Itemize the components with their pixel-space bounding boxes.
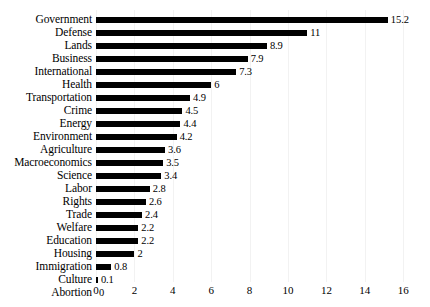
value-label: 11	[310, 26, 320, 39]
bar-row: Transportation4.9	[0, 91, 430, 104]
x-tick-label: 4	[170, 283, 176, 297]
value-label: 0.8	[114, 260, 127, 273]
category-label: International	[35, 65, 92, 78]
bar	[96, 95, 190, 101]
value-label: 4.4	[183, 117, 196, 130]
x-tick-label: 0	[93, 283, 99, 297]
category-label: Transportation	[26, 91, 92, 104]
bar	[96, 30, 307, 36]
value-label: 2.2	[141, 221, 154, 234]
bar-row: Trade2.4	[0, 208, 430, 221]
value-label: 4.5	[185, 104, 198, 117]
bar-row: Education2.2	[0, 234, 430, 247]
category-label: Welfare	[57, 221, 92, 234]
category-label: Immigration	[36, 260, 92, 273]
bar	[96, 56, 248, 62]
value-label: 2.6	[149, 195, 162, 208]
category-label: Environment	[33, 130, 92, 143]
bar-row: Housing2	[0, 247, 430, 260]
value-label: 7.3	[239, 65, 252, 78]
value-label: 3.6	[168, 143, 181, 156]
bar	[96, 108, 182, 114]
bar-row: Business7.9	[0, 52, 430, 65]
bar-row: International7.3	[0, 65, 430, 78]
bar	[96, 251, 134, 257]
bar	[96, 121, 180, 127]
value-label: 6	[214, 78, 219, 91]
value-label: 2	[137, 247, 142, 260]
category-label: Health	[62, 78, 92, 91]
bar	[96, 186, 150, 192]
x-tick-label: 6	[208, 283, 214, 297]
bar	[96, 69, 236, 75]
x-tick-label: 8	[247, 283, 253, 297]
bar-row: Environment4.2	[0, 130, 430, 143]
bar	[96, 212, 142, 218]
bar-row: Science3.4	[0, 169, 430, 182]
x-tick-label: 14	[359, 283, 370, 297]
bar-row: Labor2.8	[0, 182, 430, 195]
plot-area: Government15.2Defense11Lands8.9Business7…	[0, 0, 430, 307]
category-label: Lands	[64, 39, 92, 52]
x-axis: 0246810121416	[0, 283, 430, 303]
bar-row: Macroeconomics3.5	[0, 156, 430, 169]
value-label: 8.9	[270, 39, 283, 52]
x-tick-label: 2	[132, 283, 138, 297]
category-label: Defense	[55, 26, 92, 39]
value-label: 4.2	[180, 130, 193, 143]
category-label: Education	[46, 234, 92, 247]
bar	[96, 238, 138, 244]
bar-row: Defense11	[0, 26, 430, 39]
bar	[96, 17, 388, 23]
x-tick-label: 16	[398, 283, 409, 297]
bar	[96, 199, 146, 205]
category-label: Rights	[63, 195, 92, 208]
value-label: 2.2	[141, 234, 154, 247]
bar-row: Government15.2	[0, 13, 430, 26]
bar-row: Immigration0.8	[0, 260, 430, 273]
category-label: Labor	[65, 182, 92, 195]
category-label: Macroeconomics	[14, 156, 92, 169]
bar-row: Agriculture3.6	[0, 143, 430, 156]
category-label: Crime	[64, 104, 92, 117]
bar-chart: Government15.2Defense11Lands8.9Business7…	[0, 0, 430, 307]
category-label: Trade	[66, 208, 92, 221]
value-label: 15.2	[391, 13, 409, 26]
bar-row: Health6	[0, 78, 430, 91]
bar	[96, 225, 138, 231]
value-label: 4.9	[193, 91, 206, 104]
x-tick-label: 12	[321, 283, 332, 297]
category-label: Housing	[54, 247, 92, 260]
value-label: 7.9	[251, 52, 264, 65]
bar	[96, 277, 98, 283]
bar	[96, 147, 165, 153]
bar-row: Welfare2.2	[0, 221, 430, 234]
bar	[96, 82, 211, 88]
bar	[96, 134, 177, 140]
bar-row: Rights2.6	[0, 195, 430, 208]
value-label: 3.4	[164, 169, 177, 182]
bar	[96, 43, 267, 49]
category-label: Agriculture	[40, 143, 92, 156]
x-tick-label: 10	[283, 283, 294, 297]
bar	[96, 160, 163, 166]
category-label: Government	[36, 13, 92, 26]
bar-row: Crime4.5	[0, 104, 430, 117]
bar-row: Energy4.4	[0, 117, 430, 130]
value-label: 2.4	[145, 208, 158, 221]
value-label: 2.8	[153, 182, 166, 195]
category-label: Science	[57, 169, 92, 182]
category-label: Business	[52, 52, 92, 65]
category-label: Energy	[60, 117, 92, 130]
value-label: 3.5	[166, 156, 179, 169]
bar	[96, 173, 161, 179]
bar	[96, 264, 111, 270]
bar-row: Lands8.9	[0, 39, 430, 52]
